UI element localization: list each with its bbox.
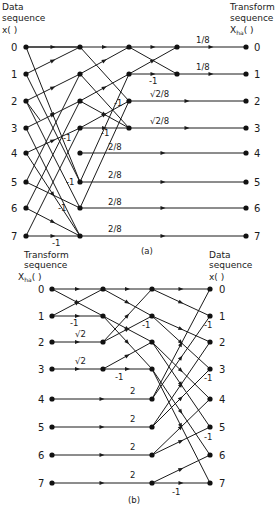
b-out-7: 7 [219, 478, 225, 489]
b-weight-5: 2 [130, 414, 135, 424]
a-weight-1: 1/8 [196, 62, 210, 72]
a-stage1-edges [26, 47, 80, 236]
a-out-5: 5 [254, 177, 260, 188]
a-weight-3: √2/8 [150, 116, 169, 126]
b-minus-one: -1 [204, 432, 212, 442]
b-out-2: 2 [219, 337, 225, 348]
a-in-5: 5 [11, 177, 17, 188]
b-minus-one: -1 [204, 373, 212, 383]
b-minus-one: -1 [70, 318, 78, 328]
a-in-0: 0 [11, 42, 17, 53]
a-in-6: 6 [11, 203, 17, 214]
b-out-1: 1 [219, 311, 225, 322]
b-right-title-2: sequence [209, 260, 253, 270]
b-out-6: 6 [219, 450, 225, 461]
a-weight-6: 2/8 [108, 197, 122, 207]
b-weight-6: 2 [130, 442, 135, 452]
b-in-7: 7 [38, 478, 44, 489]
a-left-title-1: Data [2, 2, 24, 12]
a-out-1: 1 [254, 69, 260, 80]
b-minus-one: -1 [172, 487, 180, 497]
b-right-title-3: x( ) [209, 272, 224, 282]
a-in-1: 1 [11, 69, 17, 80]
a-weight-7: 2/8 [108, 224, 122, 234]
a-output-indices: 0 1 2 3 4 5 6 7 [254, 42, 260, 242]
a-in-2: 2 [11, 96, 17, 107]
a-right-title-2: sequence [230, 13, 274, 23]
a-minus-one: -1 [63, 133, 71, 143]
b-left-title-1: Transform [23, 250, 69, 260]
haar-flow-graphs: Data sequence x( ) Transform sequence Xh… [0, 0, 276, 512]
diagram-b: Transform sequence Xha( ) Data sequence … [18, 250, 253, 505]
b-left-title-2: sequence [24, 260, 68, 270]
b-in-6: 6 [38, 450, 44, 461]
b-weight-7: 2 [130, 470, 135, 480]
a-out-6: 6 [254, 203, 260, 214]
a-minus-one: -1 [114, 98, 122, 108]
a-weight-0: 1/8 [196, 35, 210, 45]
a-in-7: 7 [11, 231, 17, 242]
a-weight-2: √2/8 [150, 89, 169, 99]
b-out-0: 0 [219, 284, 225, 295]
b-stage3-edges [152, 289, 210, 483]
b-out-4: 4 [219, 394, 225, 405]
b-in-4: 4 [38, 394, 44, 405]
a-output-edges [80, 47, 246, 236]
b-weight-4: 2 [130, 386, 135, 396]
b-in-0: 0 [38, 284, 44, 295]
b-output-indices: 0 1 2 3 4 5 6 7 [219, 284, 225, 489]
b-left-title-3: Xha( ) [18, 272, 42, 283]
a-right-title-1: Transform [229, 2, 275, 12]
a-left-title-3: x( ) [2, 25, 17, 35]
b-minus-one: -1 [142, 320, 150, 330]
b-minus-one: -1 [204, 320, 212, 330]
a-left-title-2: sequence [2, 13, 46, 23]
a-out-0: 0 [254, 42, 260, 53]
a-caption: (a) [141, 246, 153, 256]
a-minus-one: -1 [101, 128, 109, 138]
b-caption: (b) [128, 495, 140, 505]
a-stage3-edges [129, 47, 177, 74]
a-minus-one: -1 [149, 76, 157, 86]
a-weight-4: 2/8 [108, 142, 122, 152]
a-weight-5: 2/8 [108, 170, 122, 180]
b-weight-3: √2 [75, 356, 86, 366]
a-right-title-3: Xha( ) [230, 25, 254, 36]
b-out-5: 5 [219, 422, 225, 433]
a-minus-one: -1 [52, 238, 60, 248]
a-out-2: 2 [254, 96, 260, 107]
b-weights: √2 √2 2 2 2 2 -1 -1 -1 -1 -1 -1 -1 [70, 318, 212, 497]
b-weight-2: √2 [75, 329, 86, 339]
a-input-indices: 0 1 2 3 4 5 6 7 [11, 42, 17, 242]
a-minus-one: -1 [66, 177, 74, 187]
a-out-4: 4 [254, 148, 260, 159]
a-weights: 1/8 1/8 √2/8 √2/8 2/8 2/8 2/8 2/8 -1 -1 … [52, 35, 210, 248]
b-right-title-1: Data [209, 250, 231, 260]
a-out-7: 7 [254, 231, 260, 242]
b-in-2: 2 [38, 337, 44, 348]
b-in-5: 5 [38, 422, 44, 433]
a-in-3: 3 [11, 123, 17, 134]
b-in-3: 3 [38, 364, 44, 375]
b-in-1: 1 [38, 311, 44, 322]
b-input-indices: 0 1 2 3 4 5 6 7 [38, 284, 44, 489]
a-minus-one: -1 [58, 203, 66, 213]
a-out-3: 3 [254, 123, 260, 134]
b-minus-one: -1 [115, 372, 123, 382]
b-out-3: 3 [219, 364, 225, 375]
diagram-a: Data sequence x( ) Transform sequence Xh… [2, 2, 275, 256]
a-in-4: 4 [11, 148, 17, 159]
